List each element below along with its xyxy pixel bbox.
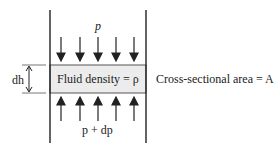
height-label: dh [12, 74, 24, 86]
top-pressure-label: p [95, 20, 101, 32]
bottom-pressure-label: p + dp [82, 124, 113, 136]
downward-pressure-arrows [57, 37, 138, 61]
area-label: Cross-sectional area = A [156, 73, 274, 85]
upward-pressure-arrows [57, 97, 138, 121]
height-dimension [22, 65, 46, 93]
fluid-density-label: Fluid density = ρ [57, 73, 139, 85]
